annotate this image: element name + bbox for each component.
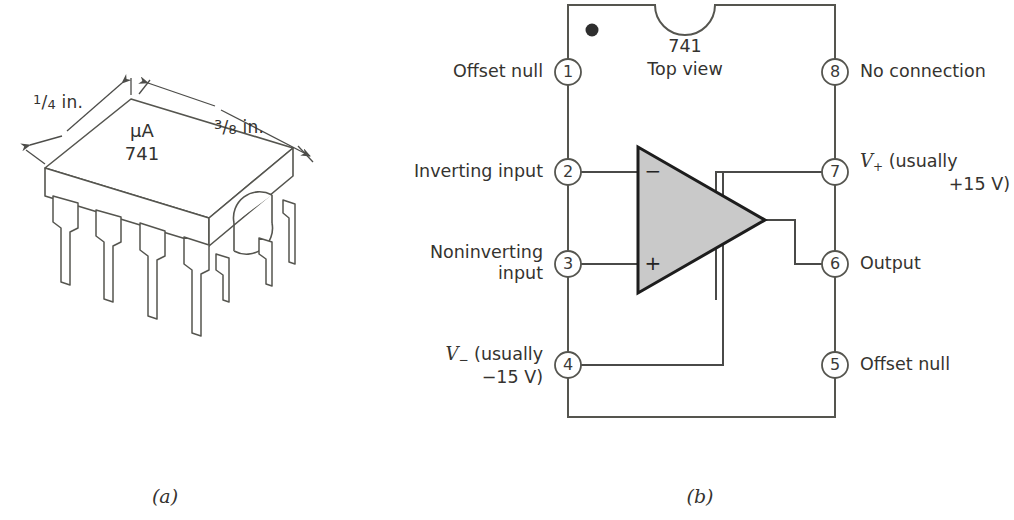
pin-number-6: 6 — [822, 255, 848, 274]
pin-label-7-v-plus: V+ (usually+15 V) — [860, 150, 1010, 195]
dim-extension-line — [139, 80, 150, 94]
pin-number-8: 8 — [822, 63, 848, 82]
pin-label-7-line2: +15 V) — [860, 174, 1014, 195]
pin-number-2: 2 — [555, 163, 581, 182]
dimension-length-label: 3/8 in. — [214, 117, 264, 137]
dim-extension-line — [26, 150, 45, 164]
caption-a: (a) — [105, 485, 225, 507]
pin-label-7-v-symbol: V — [860, 150, 873, 171]
package-pin — [140, 223, 165, 319]
dim-width-arrow — [30, 136, 62, 145]
pin-label-2-inverting-input: Inverting input — [325, 161, 543, 182]
package-marking: μA741 — [102, 120, 182, 165]
pin-number-3: 3 — [555, 255, 581, 274]
package-pin — [259, 238, 272, 286]
pin-label-3-line1: Noninverting — [430, 242, 543, 262]
pin-label-4-line1-rest: (usually — [469, 344, 544, 364]
dimension-width-unit: in. — [56, 92, 83, 112]
pin-number-4: 4 — [555, 356, 581, 375]
inverting-input-sign: − — [640, 160, 666, 184]
dimension-width-label: 1/4 in. — [33, 92, 83, 112]
pin-one-dot — [586, 24, 599, 37]
package-pin — [53, 196, 78, 285]
noninverting-input-sign: + — [640, 252, 666, 276]
caption-b: (b) — [640, 485, 760, 507]
package-pin — [216, 254, 229, 302]
top-view-device-label-line2: Top view — [647, 59, 722, 79]
pin-label-1-offset-null: Offset null — [325, 61, 543, 82]
dimension-length-denominator: 8 — [228, 122, 236, 137]
pin-label-4-v-minus: V− (usually−15 V) — [325, 343, 543, 388]
pin-label-4-v-subscript: − — [458, 353, 468, 367]
package-pin — [283, 200, 295, 264]
package-marking-line1: μA — [130, 120, 154, 141]
dim-length-arrow — [148, 83, 215, 106]
dimension-length-unit: in. — [237, 117, 264, 137]
pin-label-3-noninverting-input: Noninvertinginput — [325, 242, 543, 283]
pin-number-7: 7 — [822, 163, 848, 182]
pin-label-4-v-symbol: V — [445, 343, 458, 364]
pin-label-7-v-subscript: + — [873, 160, 883, 174]
pin-label-7-line1-rest: (usually — [883, 151, 958, 171]
pin-number-5: 5 — [822, 356, 848, 375]
pin-label-5-offset-null: Offset null — [860, 354, 1014, 375]
pin-number-1: 1 — [555, 63, 581, 82]
dimension-width-denominator: 4 — [47, 97, 55, 112]
package-pin — [96, 210, 121, 302]
pin-label-6-output: Output — [860, 253, 1014, 274]
package-pin — [184, 237, 209, 336]
pin-label-4-line2: −15 V) — [482, 367, 543, 387]
pin-label-3-line2: input — [498, 263, 543, 283]
top-view-device-label: 741Top view — [625, 35, 745, 81]
pin-label-8-no-connection: No connection — [860, 61, 1014, 82]
top-view-device-label-line1: 741 — [668, 36, 701, 56]
package-marking-line2: 741 — [125, 143, 159, 164]
